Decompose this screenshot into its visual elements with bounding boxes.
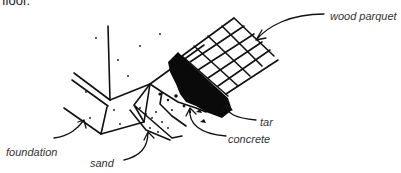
wall-edge bbox=[108, 26, 110, 100]
label-tar: tar bbox=[260, 116, 273, 128]
floor-layers-sketch bbox=[0, 0, 401, 173]
foundation-wall bbox=[64, 73, 110, 134]
parquet-arrow bbox=[256, 14, 324, 40]
label-sand: sand bbox=[90, 157, 114, 169]
label-wood-parquet: wood parquet bbox=[330, 10, 397, 22]
sand-layer bbox=[134, 84, 182, 138]
foundation-arrow bbox=[54, 120, 86, 138]
label-foundation: foundation bbox=[6, 146, 57, 158]
label-concrete: concrete bbox=[228, 133, 270, 145]
tar-layer bbox=[168, 52, 232, 118]
sand-arrow bbox=[124, 132, 154, 160]
